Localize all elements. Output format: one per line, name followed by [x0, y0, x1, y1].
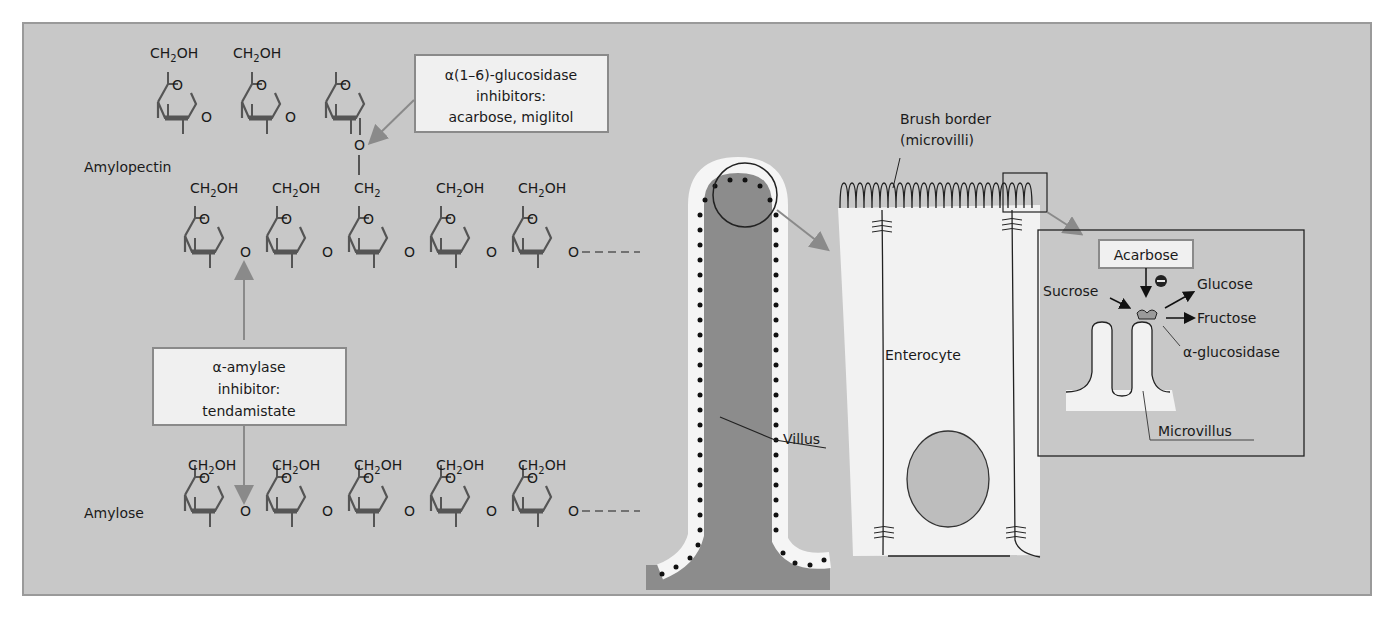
svg-text:O: O: [363, 470, 374, 486]
svg-text:O: O: [527, 211, 538, 227]
amylose-label: Amylose: [84, 505, 144, 521]
ring-oxygen: O: [172, 77, 183, 93]
diagram-canvas: CH2OH CH2OH O O O O O O Amylopectin CH2O…: [0, 0, 1394, 637]
svg-text:CH2OH: CH2OH: [436, 180, 484, 199]
svg-text:inhibitors:: inhibitors:: [476, 88, 546, 104]
svg-text:CH2OH: CH2OH: [272, 180, 320, 199]
svg-text:CH2OH: CH2OH: [518, 180, 566, 199]
glucose-label: Glucose: [1197, 276, 1253, 292]
glycosidic-oxygen: O: [285, 109, 296, 125]
svg-text:O: O: [322, 503, 333, 519]
svg-text:O: O: [281, 211, 292, 227]
microvilli-label: (microvilli): [900, 132, 974, 148]
svg-text:α-amylase: α-amylase: [212, 359, 285, 375]
enterocyte-label: Enterocyte: [885, 347, 961, 363]
svg-text:tendamistate: tendamistate: [202, 403, 295, 419]
branch-oxygen: O: [354, 137, 365, 153]
ring-oxygen: O: [256, 77, 267, 93]
ch2-label: CH2: [354, 180, 381, 199]
svg-text:O: O: [568, 503, 579, 519]
svg-text:O: O: [486, 503, 497, 519]
svg-text:O: O: [445, 211, 456, 227]
svg-text:CH2OH: CH2OH: [354, 457, 402, 476]
ch2oh-label: CH2OH: [233, 45, 281, 64]
svg-text:O: O: [199, 470, 210, 486]
villus-label: Villus: [783, 431, 820, 447]
svg-text:O: O: [486, 244, 497, 260]
glycosidic-oxygen: O: [201, 109, 212, 125]
amylose-chain: CH2OH CH2OH CH2OH CH2OH CH2OH O O O O O …: [185, 457, 640, 527]
svg-text:acarbose, miglitol: acarbose, miglitol: [448, 109, 573, 125]
svg-text:CH2OH: CH2OH: [272, 457, 320, 476]
svg-text:O: O: [527, 470, 538, 486]
svg-text:O: O: [445, 470, 456, 486]
amylopectin-label: Amylopectin: [84, 159, 171, 175]
svg-text:O: O: [404, 244, 415, 260]
svg-text:CH2OH: CH2OH: [190, 180, 238, 199]
amylopectin-branch: CH2OH CH2OH O O O O O O: [150, 45, 365, 175]
amylopectin-main-chain: CH2OH CH2OH CH2 CH2OH CH2OH O O O O O O …: [185, 180, 640, 268]
sucrose-label: Sucrose: [1043, 283, 1098, 299]
microvillus-label: Microvillus: [1158, 423, 1232, 439]
svg-text:inhibitor:: inhibitor:: [218, 381, 281, 397]
enterocyte-illustration: Enterocyte Brush border (microvilli): [838, 111, 1075, 557]
svg-text:Acarbose: Acarbose: [1114, 247, 1179, 263]
fructose-label: Fructose: [1197, 310, 1256, 326]
svg-text:O: O: [322, 244, 333, 260]
villus-illustration: Villus: [646, 163, 830, 590]
svg-text:O: O: [281, 470, 292, 486]
ch2oh-label: CH2OH: [150, 45, 198, 64]
alpha-glucosidase-label: α-glucosidase: [1183, 344, 1280, 360]
svg-text:O: O: [240, 503, 251, 519]
svg-text:α(1–6)-glucosidase: α(1–6)-glucosidase: [445, 67, 578, 83]
svg-text:CH2OH: CH2OH: [518, 457, 566, 476]
svg-text:O: O: [404, 503, 415, 519]
svg-text:O: O: [363, 211, 374, 227]
glucosidase-inhibitor-callout: α(1–6)-glucosidase inhibitors: acarbose,…: [375, 55, 608, 138]
ring-oxygen: O: [340, 77, 351, 93]
microvillus-inset: Acarbose Sucrose Glucose Fructose α-gluc…: [1038, 230, 1304, 456]
brush-border-label: Brush border: [900, 111, 991, 127]
nucleus: [907, 431, 989, 527]
svg-text:O: O: [240, 244, 251, 260]
svg-text:O: O: [568, 244, 579, 260]
svg-text:CH2OH: CH2OH: [436, 457, 484, 476]
svg-text:O: O: [199, 211, 210, 227]
